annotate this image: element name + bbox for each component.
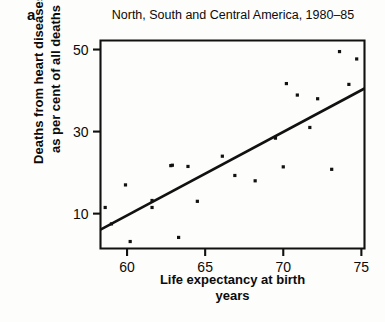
data-point xyxy=(285,82,288,85)
x-tick-label: 60 xyxy=(119,259,135,275)
data-point xyxy=(338,50,341,53)
data-point xyxy=(110,222,113,225)
data-point xyxy=(186,165,189,168)
data-point xyxy=(274,137,277,140)
x-tick-label: 75 xyxy=(354,259,370,275)
data-point xyxy=(330,168,333,171)
data-point xyxy=(308,126,311,129)
scatter-plot: 60657075 103050 xyxy=(0,0,385,322)
regression-line xyxy=(101,89,365,230)
data-points xyxy=(104,50,359,243)
chart-figure: a North, South and Central America, 1980… xyxy=(0,0,385,322)
y-tick-label: 50 xyxy=(73,42,89,58)
fit-line xyxy=(101,89,365,230)
data-point xyxy=(171,164,174,167)
data-point xyxy=(129,240,132,243)
data-point xyxy=(254,179,257,182)
y-tick-label: 30 xyxy=(73,124,89,140)
data-point xyxy=(296,93,299,96)
y-tick-label: 10 xyxy=(73,206,89,222)
data-point xyxy=(282,165,285,168)
x-axis-ticks: 60657075 xyxy=(119,249,369,275)
data-point xyxy=(150,206,153,209)
data-point xyxy=(150,199,153,202)
x-tick-label: 65 xyxy=(197,259,213,275)
data-point xyxy=(233,174,236,177)
data-point xyxy=(316,97,319,100)
data-point xyxy=(104,206,107,209)
data-point xyxy=(347,83,350,86)
data-point xyxy=(221,155,224,158)
data-point xyxy=(355,57,358,60)
x-tick-label: 70 xyxy=(275,259,291,275)
data-point xyxy=(177,236,180,239)
axis-frame xyxy=(101,41,365,249)
y-axis-ticks: 103050 xyxy=(73,42,101,222)
data-point xyxy=(196,200,199,203)
data-point xyxy=(124,183,127,186)
